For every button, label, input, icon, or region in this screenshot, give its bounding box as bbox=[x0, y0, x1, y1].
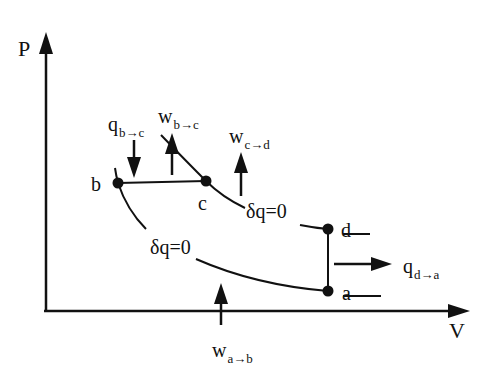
adiabat-lower-curve-2 bbox=[196, 259, 328, 291]
p-axis-label: P bbox=[18, 38, 30, 60]
label-c: c bbox=[198, 193, 207, 213]
v-axis-label: V bbox=[449, 320, 465, 342]
point-c bbox=[201, 176, 212, 187]
label-w-ab: wa→b bbox=[212, 340, 253, 360]
arrow-w-cd bbox=[234, 152, 248, 196]
v-axis bbox=[44, 304, 470, 318]
arrow-w-ab bbox=[214, 283, 228, 325]
arrow-q-bc bbox=[127, 140, 141, 178]
arrow-w-bc bbox=[165, 133, 179, 175]
label-d: d bbox=[341, 220, 351, 240]
label-q-bc: qb→c bbox=[108, 114, 144, 134]
label-adiabat-lower: δq=0 bbox=[150, 237, 191, 257]
adiabat-lower-curve-1 bbox=[115, 168, 146, 229]
pv-diagram bbox=[0, 0, 494, 384]
label-a: a bbox=[342, 283, 351, 303]
label-b: b bbox=[91, 174, 101, 194]
point-a bbox=[323, 286, 334, 297]
label-q-da: qd→a bbox=[403, 256, 439, 276]
p-axis bbox=[39, 32, 53, 312]
label-w-cd: wc→d bbox=[229, 126, 270, 146]
label-adiabat-upper: δq=0 bbox=[246, 201, 287, 221]
point-b bbox=[113, 178, 124, 189]
point-d bbox=[323, 224, 334, 235]
label-w-bc: wb→c bbox=[158, 106, 199, 126]
isobar-bc bbox=[118, 181, 206, 183]
arrow-q-da bbox=[334, 257, 392, 271]
